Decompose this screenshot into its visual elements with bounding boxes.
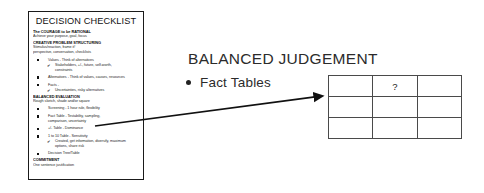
checklist-section-subtitle: Rough sketch, shade and/or square bbox=[33, 99, 139, 104]
checklist-subitem: ✔ Created, get information, diversify, m… bbox=[33, 139, 139, 144]
table-cell bbox=[373, 118, 417, 139]
fact-table-grid: ? bbox=[328, 75, 462, 139]
square-bullet-icon bbox=[37, 115, 39, 117]
table-cell bbox=[329, 76, 373, 97]
checklist-subitem: ✔ Uncertainties, risky alternatives bbox=[33, 88, 139, 93]
checklist-item: +/- Table - Dominance bbox=[33, 126, 139, 131]
table-row bbox=[329, 97, 462, 118]
checklist-subitem-label: Uncertainties, risky alternatives bbox=[55, 88, 104, 92]
checklist-item-continuation: constraints bbox=[33, 68, 139, 73]
slide-canvas: DECISION CHECKLIST The COURAGE to be RAT… bbox=[0, 0, 484, 193]
checklist-item: Decision Tree/Table bbox=[33, 151, 139, 156]
fact-tables-label: Fact Tables bbox=[200, 75, 271, 90]
section-title: BALANCED JUDGEMENT bbox=[188, 50, 378, 68]
checklist-item-fact-table: Fact Table - Testability, sampling, bbox=[33, 114, 139, 119]
checklist-item-label: Values - Think of alternatives bbox=[48, 58, 94, 62]
checklist-item: Alternatives - Think of values, causes, … bbox=[33, 75, 139, 80]
checklist-item: Screening - 1 hour rule, flexibility bbox=[33, 106, 139, 111]
table-cell bbox=[417, 76, 461, 97]
checklist-item-label: Alternatives - Think of values, causes, … bbox=[48, 75, 125, 79]
checklist-section-subtitle: perspective, conversation, checklists bbox=[33, 50, 139, 55]
checkmark-icon: ✔ bbox=[47, 88, 50, 93]
table-cell bbox=[417, 118, 461, 139]
checklist-item-label: +/- Table - Dominance bbox=[48, 126, 83, 130]
square-bullet-icon bbox=[37, 84, 39, 86]
checklist-subitem-label: Created, get information, diversify, max… bbox=[55, 139, 126, 143]
table-row bbox=[329, 118, 462, 139]
checklist-item-label: Facts - bbox=[48, 83, 59, 87]
square-bullet-icon bbox=[37, 135, 39, 137]
checklist-item-continuation: comparison, uncertainty bbox=[33, 119, 139, 124]
table-cell bbox=[417, 97, 461, 118]
table-cell bbox=[329, 97, 373, 118]
bullet-dot-icon bbox=[186, 80, 191, 85]
checklist-title: DECISION CHECKLIST bbox=[33, 16, 139, 26]
table-cell bbox=[373, 97, 417, 118]
checklist-item-label: Screening - 1 hour rule, flexibility bbox=[48, 106, 100, 110]
square-bullet-icon bbox=[37, 153, 39, 155]
checklist-subitem-label: Stakeholders, +/-, future, self-worth, bbox=[55, 63, 112, 67]
checklist-item-label: Decision Tree/Table bbox=[48, 151, 79, 155]
checklist-item-label: Fact Table - Testability, sampling, bbox=[48, 114, 100, 118]
square-bullet-icon bbox=[37, 108, 39, 110]
checklist-item-continuation: options, share risk bbox=[33, 144, 139, 149]
table-row: ? bbox=[329, 76, 462, 97]
checkmark-icon: ✔ bbox=[47, 139, 50, 144]
square-bullet-icon bbox=[37, 128, 39, 130]
decision-checklist-panel: DECISION CHECKLIST The COURAGE to be RAT… bbox=[28, 11, 144, 180]
table-cell-question: ? bbox=[373, 76, 417, 97]
square-bullet-icon bbox=[37, 59, 39, 61]
checklist-section-subtitle: One sentence justification bbox=[33, 163, 139, 168]
fact-tables-bullet-row: Fact Tables bbox=[186, 75, 271, 90]
square-bullet-icon bbox=[37, 76, 39, 78]
checklist-item-label: 1 to 10 Table - Sensitivity bbox=[48, 134, 88, 138]
checklist-subitem: ✔ Stakeholders, +/-, future, self-worth, bbox=[33, 63, 139, 68]
checklist-section-subtitle: Achieve your purpose, goal, focus bbox=[33, 34, 139, 39]
checkmark-icon: ✔ bbox=[47, 63, 50, 68]
table-cell bbox=[329, 118, 373, 139]
